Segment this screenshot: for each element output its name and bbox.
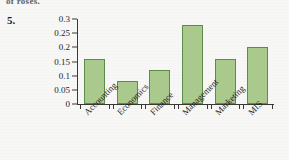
y-axis-tick-label: 0: [66, 99, 71, 109]
y-axis-tick-label: 0.3: [59, 14, 70, 24]
y-axis-tick-labels: 00.050.10.150.20.250.3: [44, 0, 70, 160]
y-axis-tick-label: 0.2: [59, 42, 70, 52]
y-axis-tick-label: 0.05: [54, 85, 70, 95]
x-axis-tick-mark: [243, 105, 244, 109]
x-axis-tick-mark: [141, 105, 142, 109]
x-axis-tick-mark: [145, 105, 146, 109]
bar: [247, 47, 268, 104]
x-axis-tick-mark: [80, 105, 81, 109]
y-axis-tick-label: 0.1: [59, 71, 70, 81]
x-axis-tick-mark: [178, 105, 179, 109]
x-axis-tick-mark: [207, 105, 208, 109]
x-axis-tick-mark: [239, 105, 240, 109]
x-axis-tick-labels: AccountingEconomicsFinanceManagementMark…: [78, 110, 288, 160]
x-axis-tick-mark: [211, 105, 212, 109]
y-axis-tick-label: 0.25: [54, 28, 70, 38]
x-axis-tick-mark: [109, 105, 110, 109]
y-axis-tick-label: 0.15: [54, 57, 70, 67]
x-axis-tick-mark: [272, 105, 273, 109]
bar-chart: 00.050.10.150.20.250.3 AccountingEconomi…: [0, 0, 289, 160]
x-axis-tick-mark: [113, 105, 114, 109]
x-axis-tick-mark: [174, 105, 175, 109]
